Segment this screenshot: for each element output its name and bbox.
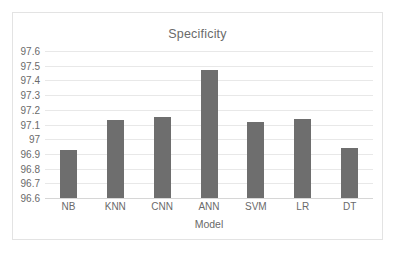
y-axis-tick-label: 97.5 (21, 61, 40, 72)
y-axis-tick-label: 96.9 (21, 149, 40, 160)
y-axis-tick-label: 96.8 (21, 164, 40, 175)
x-axis-tick-label-lr: LR (279, 201, 326, 212)
x-axis-tick-label-cnn: CNN (139, 201, 186, 212)
x-axis-line (45, 198, 373, 199)
bar-svm[interactable] (247, 122, 264, 198)
bar-slot (45, 51, 92, 198)
x-axis-tick-label-dt: DT (326, 201, 373, 212)
bar-nb[interactable] (60, 150, 77, 199)
x-axis-tick-labels: NBKNNCNNANNSVMLRDT (45, 201, 373, 212)
x-axis-tick-label-nb: NB (45, 201, 92, 212)
y-axis-tick-label: 97.2 (21, 105, 40, 116)
bar-slot (92, 51, 139, 198)
bar-slot (186, 51, 233, 198)
bar-knn[interactable] (107, 120, 124, 198)
x-axis-tick-label-svm: SVM (232, 201, 279, 212)
x-axis-title: Model (45, 218, 373, 230)
bar-lr[interactable] (294, 119, 311, 198)
y-axis-tick-label: 97.3 (21, 90, 40, 101)
x-axis-tick-label-knn: KNN (92, 201, 139, 212)
y-axis-tick-label: 97.1 (21, 120, 40, 131)
bar-slot (232, 51, 279, 198)
chart-title: Specificity (13, 27, 382, 41)
bar-slot (326, 51, 373, 198)
y-axis-tick-label: 96.7 (21, 178, 40, 189)
bar-ann[interactable] (201, 70, 218, 198)
y-axis-tick-label: 97 (29, 134, 40, 145)
bar-slot (139, 51, 186, 198)
bar-series (45, 51, 373, 198)
y-axis-tick-label: 97.6 (21, 46, 40, 57)
chart-container: Specificity 97.697.597.497.397.297.19796… (12, 12, 383, 240)
bar-dt[interactable] (341, 148, 358, 198)
y-axis-tick-label: 96.6 (21, 193, 40, 204)
y-axis-tick-label: 97.4 (21, 75, 40, 86)
x-axis-tick-label-ann: ANN (186, 201, 233, 212)
bar-slot (279, 51, 326, 198)
bar-cnn[interactable] (154, 117, 171, 198)
